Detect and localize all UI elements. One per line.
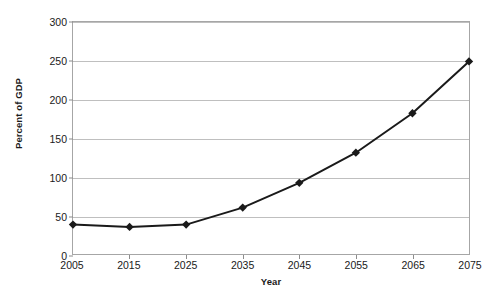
data-point-marker: [182, 220, 190, 228]
plot-area: 050100150200250300: [72, 21, 470, 255]
y-axis-title: Percent of GDP: [13, 54, 24, 174]
y-tick-label: 50: [55, 211, 67, 223]
data-series-layer: [73, 22, 469, 254]
x-tick-label: 2005: [60, 259, 83, 271]
y-tick-label: 200: [49, 94, 67, 106]
y-tick-mark: [69, 256, 73, 257]
x-tick-label: 2025: [174, 259, 197, 271]
x-tick-label: 2075: [458, 259, 481, 271]
x-tick-label: 2045: [288, 259, 311, 271]
x-axis-title: Year: [72, 276, 470, 287]
x-tick-mark: [186, 255, 187, 259]
y-tick-label: 300: [49, 16, 67, 28]
x-tick-mark: [356, 255, 357, 259]
data-point-marker: [125, 223, 133, 231]
y-tick-label: 150: [49, 133, 67, 145]
x-tick-mark: [243, 255, 244, 259]
y-tick-label: 250: [49, 55, 67, 67]
data-point-marker: [239, 203, 247, 211]
line-chart: Percent of GDP 050100150200250300 200520…: [0, 0, 501, 301]
x-tick-label: 2065: [401, 259, 424, 271]
data-point-marker: [69, 220, 77, 228]
x-tick-mark: [299, 255, 300, 259]
x-tick-label: 2015: [117, 259, 140, 271]
series-line: [73, 61, 469, 226]
x-tick-label: 2055: [345, 259, 368, 271]
x-tick-label: 2035: [231, 259, 254, 271]
data-point-marker: [295, 179, 303, 187]
y-tick-label: 100: [49, 172, 67, 184]
x-tick-mark: [129, 255, 130, 259]
x-tick-mark: [413, 255, 414, 259]
